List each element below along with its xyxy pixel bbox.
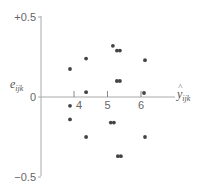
data-point bbox=[119, 154, 123, 158]
data-point bbox=[84, 57, 88, 61]
x-tick-label: 4 bbox=[76, 99, 82, 111]
x-tick-label: 5 bbox=[104, 99, 110, 111]
residual-scatter-plot: +0.50−0.5 456 eijk ^ yijk bbox=[0, 0, 200, 188]
y-axis-label: eijk bbox=[10, 77, 24, 93]
data-point bbox=[142, 91, 146, 95]
x-tick-label: 6 bbox=[138, 99, 144, 111]
data-point bbox=[118, 79, 122, 83]
y-tick-label: −0.5 bbox=[14, 171, 36, 183]
data-point bbox=[111, 44, 115, 48]
y-tick-label: +0.5 bbox=[14, 11, 36, 23]
data-point bbox=[84, 135, 88, 139]
data-point bbox=[143, 58, 147, 62]
y-ticks: +0.50−0.5 bbox=[14, 11, 41, 183]
axis-labels: eijk ^ yijk bbox=[10, 77, 191, 103]
data-point bbox=[68, 67, 72, 71]
data-point bbox=[112, 121, 116, 125]
data-point bbox=[68, 118, 72, 122]
x-ticks: 456 bbox=[74, 91, 144, 111]
data-point bbox=[68, 104, 72, 108]
x-axis-label: yijk bbox=[176, 87, 191, 103]
data-point bbox=[118, 49, 122, 53]
data-point bbox=[84, 90, 88, 94]
y-tick-label: 0 bbox=[30, 91, 36, 103]
data-point bbox=[143, 135, 147, 139]
